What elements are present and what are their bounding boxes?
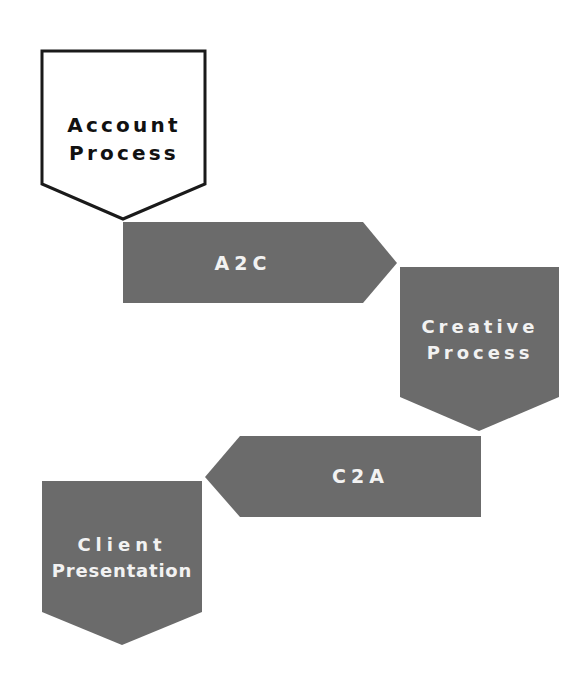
client-presentation-label-line-2: Presentation — [42, 562, 202, 580]
c2a-label-text: C2A — [240, 467, 481, 486]
account-process-label-line-2: Process — [42, 143, 206, 163]
c2a-label: C2A — [240, 467, 481, 486]
creative-process-label: Creative Process — [400, 318, 560, 362]
a2c-label-text: A2C — [123, 254, 363, 273]
account-process-label-line-1: Account — [42, 115, 206, 135]
process-flow-diagram: Account Process A2C Creative Process C2A… — [0, 0, 586, 686]
client-presentation-label-line-1: Client — [42, 536, 202, 554]
creative-process-label-line-1: Creative — [400, 318, 560, 336]
a2c-label: A2C — [123, 254, 363, 273]
account-process-label: Account Process — [42, 115, 206, 163]
creative-process-label-line-2: Process — [400, 344, 560, 362]
client-presentation-label: Client Presentation — [42, 536, 202, 580]
